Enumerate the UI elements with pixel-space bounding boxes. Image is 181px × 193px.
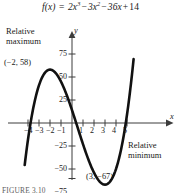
function-curve — [25, 59, 134, 185]
figure-caption: FIGURE 3.10 — [2, 186, 122, 193]
figure-container: f(x) = 2x3−3x2−36x+14 Relative maximum R… — [0, 0, 181, 193]
graph-canvas — [0, 0, 181, 193]
y-axis-arrow — [69, 31, 76, 38]
x-axis-arrow — [166, 120, 174, 127]
